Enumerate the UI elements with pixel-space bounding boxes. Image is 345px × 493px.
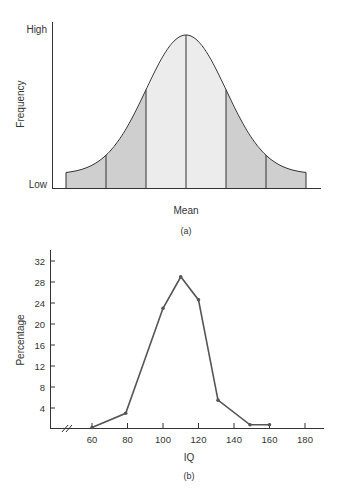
- x-tick-label: 120: [191, 434, 207, 445]
- data-point: [124, 411, 128, 415]
- x-tick-label: 160: [262, 434, 278, 445]
- x-tick-label: 100: [155, 434, 171, 445]
- y-tick-label: 8: [40, 382, 45, 393]
- y-ticks: 48121620242832: [34, 256, 55, 414]
- y-tick-label: 16: [34, 340, 45, 351]
- data-point: [90, 426, 94, 430]
- y-axis-title-b: Percentage: [15, 314, 26, 366]
- y-tick-label: 20: [34, 319, 45, 330]
- data-point: [216, 398, 220, 402]
- x-ticks: 6080100120140160180: [87, 423, 313, 445]
- x-tick-label: 180: [297, 434, 313, 445]
- x-axis-title-b: IQ: [184, 452, 195, 463]
- y-tick-label: 24: [34, 298, 45, 309]
- data-point: [161, 306, 165, 310]
- x-tick-label: 60: [87, 434, 98, 445]
- iq-line: [92, 277, 270, 428]
- data-point: [197, 298, 201, 302]
- caption-b: (b): [184, 471, 195, 481]
- y-tick-label: 28: [34, 277, 45, 288]
- x-tick-label: 140: [226, 434, 242, 445]
- y-tick-label: 12: [34, 361, 45, 372]
- chart-b: 48121620242832 6080100120140160180 Perce…: [0, 0, 345, 493]
- x-tick-label: 80: [122, 434, 133, 445]
- data-points: [90, 275, 271, 429]
- y-tick-label: 32: [34, 256, 45, 267]
- data-point: [268, 423, 272, 427]
- data-point: [248, 423, 252, 427]
- y-tick-label: 4: [40, 403, 45, 414]
- data-point: [179, 275, 183, 279]
